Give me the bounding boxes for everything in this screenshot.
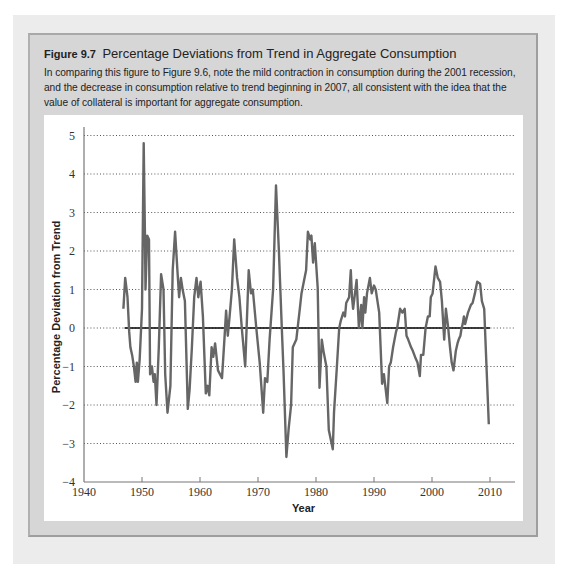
y-tick-label: −3 xyxy=(62,437,75,451)
x-tick-label: 2000 xyxy=(420,485,444,499)
data-series-line xyxy=(123,143,488,457)
plot-panel: 543210−1−2−3−4 1940195019601970198019902… xyxy=(44,115,523,521)
x-tick-label: 1960 xyxy=(188,485,212,499)
x-tick-label: 1970 xyxy=(246,485,270,499)
x-tick-label: 2010 xyxy=(478,485,502,499)
y-tick-label: 3 xyxy=(69,206,75,220)
x-tick-label: 1990 xyxy=(362,485,386,499)
y-tick-label: 4 xyxy=(69,167,75,181)
figure-title: Percentage Deviations from Trend in Aggr… xyxy=(102,46,456,61)
x-tick-labels: 19401950196019701980199020002010 xyxy=(72,485,502,499)
x-axis-title: Year xyxy=(292,502,316,514)
y-tick-label: 0 xyxy=(69,321,75,335)
y-tick-label: −1 xyxy=(62,360,75,374)
figure-caption: Figure 9.7 Percentage Deviations from Tr… xyxy=(44,46,524,110)
y-tick-label: 1 xyxy=(69,283,75,297)
x-tick-label: 1950 xyxy=(130,485,154,499)
y-axis-title: Percentage Deviation from Trend xyxy=(50,221,62,393)
y-tick-labels: 543210−1−2−3−4 xyxy=(62,129,75,490)
line-chart: 543210−1−2−3−4 1940195019601970198019902… xyxy=(44,115,523,521)
x-tick-label: 1980 xyxy=(304,485,328,499)
y-tick-label: 2 xyxy=(69,244,75,258)
figure-number: Figure 9.7 xyxy=(44,48,96,60)
figure-caption-text: In comparing this figure to Figure 9.6, … xyxy=(44,65,524,110)
figure-heading: Figure 9.7 Percentage Deviations from Tr… xyxy=(44,46,524,62)
y-tick-label: 5 xyxy=(69,129,75,143)
x-tick-label: 1940 xyxy=(72,485,96,499)
y-tick-label: −2 xyxy=(62,398,75,412)
